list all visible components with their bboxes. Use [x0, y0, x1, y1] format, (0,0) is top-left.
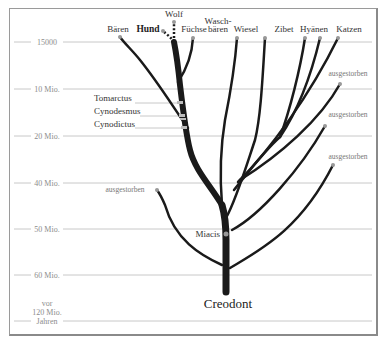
label-cynodesmus: Cynodesmus	[94, 106, 141, 116]
label-extinct-left: ausgestorben	[105, 185, 144, 194]
tick-120-line1: vor	[42, 299, 53, 308]
fossil-leader-lines	[135, 103, 184, 128]
label-baeren: Bären	[107, 24, 129, 34]
label-extinct-right-2: ausgestorben	[328, 110, 367, 119]
tick-20-mio: 20 Mio.	[34, 132, 59, 141]
label-wiesel: Wiesel	[234, 24, 259, 34]
label-wolf: Wolf	[165, 9, 183, 19]
tick-60-mio: 60 Mio.	[34, 271, 59, 280]
label-cynodictus: Cynodictus	[94, 119, 135, 129]
label-miacis: Miacis	[196, 229, 221, 239]
label-hyaenen: Hyänen	[300, 24, 328, 34]
label-creodont: Creodont	[204, 296, 253, 311]
label-fuechse: Füchse	[181, 24, 207, 34]
tick-40-mio: 40 Mio.	[34, 179, 59, 188]
tick-15000: 15000	[37, 38, 57, 47]
label-zibet: Zibet	[275, 24, 294, 34]
phylogenetic-tree: 15000 10 Mio. 20 Mio. 40 Mio. 50 Mio. 60…	[0, 0, 382, 342]
leaf-labels: Bären Hund Wolf Füchse Wasch- bären Wies…	[107, 9, 362, 34]
label-extinct-right-3: ausgestorben	[328, 152, 367, 161]
tick-50-mio: 50 Mio.	[34, 225, 59, 234]
label-extinct-right-1: ausgestorben	[328, 69, 367, 78]
tick-120-line3: Jahren	[37, 317, 58, 326]
label-hund: Hund	[136, 24, 160, 34]
label-katzen: Katzen	[336, 24, 362, 34]
fossil-labels: Tomarctus Cynodesmus Cynodictus	[94, 93, 141, 129]
tree-branches	[120, 22, 340, 292]
time-gridlines	[14, 42, 372, 321]
tick-120-line2: 120 Mio.	[32, 308, 61, 317]
time-axis-labels: 15000 10 Mio. 20 Mio. 40 Mio. 50 Mio. 60…	[32, 38, 61, 326]
tick-10-mio: 10 Mio.	[34, 85, 59, 94]
label-waschbaeren-2: bären	[208, 24, 228, 34]
label-tomarctus: Tomarctus	[94, 93, 132, 103]
